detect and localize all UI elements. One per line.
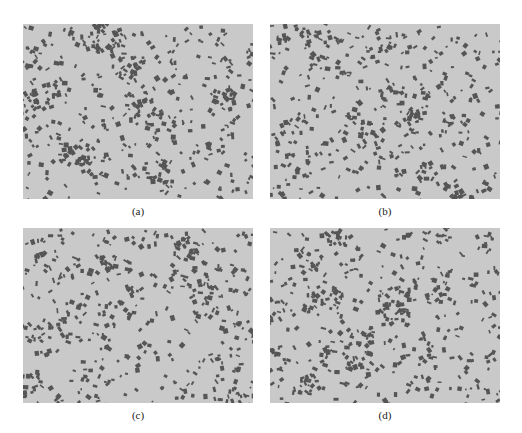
particle-image-c [23,228,253,403]
particle-image-a [23,24,253,199]
caption-a: (a) [23,205,253,217]
caption-d: (d) [270,409,500,421]
particle-image-b [270,24,500,199]
micrograph-panel-a [23,24,253,199]
caption-c: (c) [23,409,253,421]
caption-b: (b) [270,205,500,217]
micrograph-panel-b [270,24,500,199]
micrograph-panel-d [270,228,500,403]
micrograph-panel-c [23,228,253,403]
particle-image-d [270,228,500,403]
